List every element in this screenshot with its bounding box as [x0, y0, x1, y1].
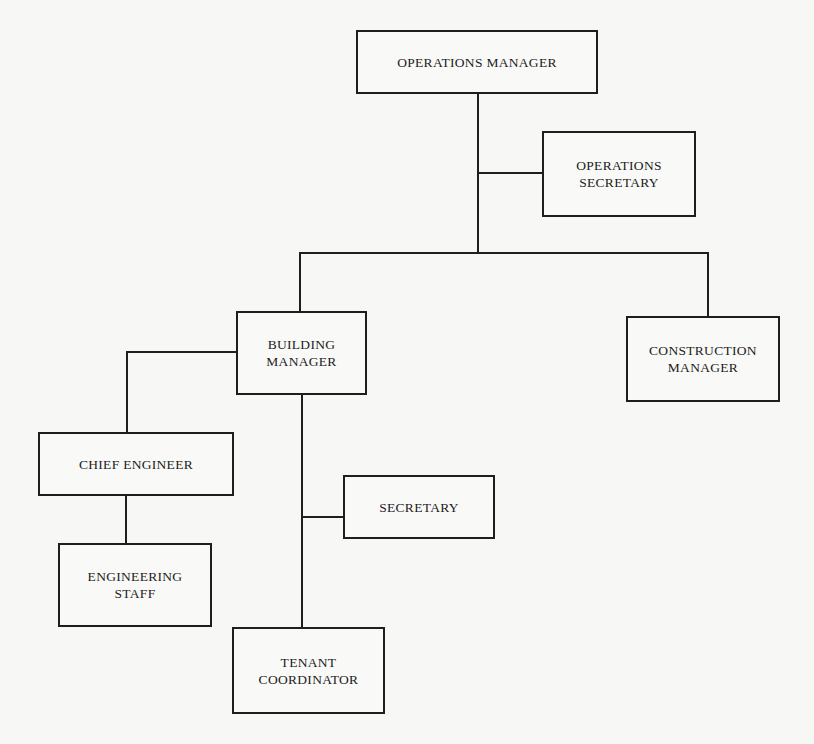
node-label: BUILDING MANAGER	[266, 336, 336, 370]
connector-chief-engineer-drop	[126, 351, 128, 433]
connector-level2-bar	[299, 252, 709, 254]
connector-construction-manager-drop	[707, 252, 709, 317]
node-chief-engineer: CHIEF ENGINEER	[38, 432, 234, 496]
connector-building-manager-trunk	[301, 393, 303, 628]
connector-chief-engineer-bar	[126, 351, 237, 353]
node-label: CONSTRUCTION MANAGER	[649, 342, 757, 376]
node-engineering-staff: ENGINEERING STAFF	[58, 543, 212, 627]
node-operations-secretary: OPERATIONS SECRETARY	[542, 131, 696, 217]
node-label: SECRETARY	[379, 499, 459, 516]
node-building-manager: BUILDING MANAGER	[236, 311, 367, 395]
node-label: OPERATIONS MANAGER	[397, 54, 557, 71]
node-secretary: SECRETARY	[343, 475, 495, 539]
node-operations-manager: OPERATIONS MANAGER	[356, 30, 598, 94]
node-label: TENANT COORDINATOR	[259, 654, 359, 688]
node-label: CHIEF ENGINEER	[79, 456, 193, 473]
node-label: OPERATIONS SECRETARY	[576, 157, 662, 191]
node-tenant-coordinator: TENANT COORDINATOR	[232, 627, 385, 714]
node-label: ENGINEERING STAFF	[88, 568, 183, 602]
connector-building-manager-drop	[299, 252, 301, 312]
connector-engineering-staff	[125, 494, 127, 544]
connector-secretary	[301, 516, 344, 518]
connector-ops-secretary	[477, 172, 543, 174]
node-construction-manager: CONSTRUCTION MANAGER	[626, 316, 780, 402]
